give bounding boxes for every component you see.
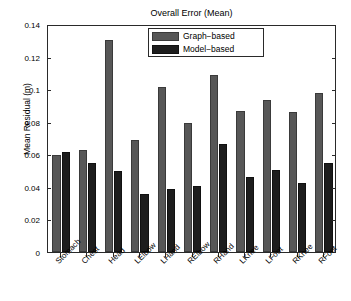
- legend-item-graph-based[interactable]: Graph−based: [152, 31, 235, 42]
- bar-chest-model-based[interactable]: [88, 163, 96, 252]
- bar-head-model-based[interactable]: [114, 171, 122, 252]
- legend-swatch-model-based-icon: [152, 45, 179, 54]
- y-tick-label: 0.06: [24, 151, 40, 160]
- y-tick-label: 0.08: [24, 118, 40, 127]
- bar-lknee-graph-based[interactable]: [236, 111, 244, 252]
- bar-rhand-model-based[interactable]: [219, 144, 227, 252]
- bar-stomach-graph-based[interactable]: [52, 155, 60, 252]
- bar-relbow-graph-based[interactable]: [184, 123, 192, 252]
- y-axis-tick-labels: 00.020.040.060.080.10.120.14: [0, 25, 44, 253]
- legend-label-model-based: Model−based: [183, 45, 234, 54]
- bars-container: [48, 26, 335, 252]
- legend-item-model-based[interactable]: Model−based: [152, 44, 234, 55]
- y-tick-label: 0.02: [24, 216, 40, 225]
- x-axis-tick-labels: StomachChestHeadLElbowLHandRElbowRHandLK…: [0, 253, 351, 301]
- bar-rfoot-model-based[interactable]: [324, 163, 332, 252]
- bar-lfoot-model-based[interactable]: [272, 170, 280, 252]
- bar-lhand-graph-based[interactable]: [158, 87, 166, 252]
- bar-rknee-graph-based[interactable]: [289, 112, 297, 252]
- y-tick-label: 0.14: [24, 21, 40, 30]
- bar-head-graph-based[interactable]: [105, 40, 113, 252]
- bar-lknee-model-based[interactable]: [246, 177, 254, 252]
- bar-stomach-model-based[interactable]: [62, 152, 70, 252]
- y-tick-label: 0.12: [24, 53, 40, 62]
- bar-chest-graph-based[interactable]: [79, 150, 87, 252]
- y-tick-label: 0.1: [29, 86, 40, 95]
- bar-relbow-model-based[interactable]: [193, 186, 201, 252]
- legend: Graph−based Model−based: [148, 28, 264, 57]
- bar-rknee-model-based[interactable]: [298, 183, 306, 252]
- bar-rhand-graph-based[interactable]: [210, 75, 218, 252]
- plot-area: [47, 25, 336, 253]
- figure-canvas: Overall Error (Mean) Mean Residual (m) 0…: [0, 0, 351, 301]
- chart-title: Overall Error (Mean): [47, 8, 336, 18]
- bar-lfoot-graph-based[interactable]: [263, 100, 271, 252]
- y-tick-label: 0.04: [24, 183, 40, 192]
- bar-lelbow-graph-based[interactable]: [131, 140, 139, 252]
- legend-swatch-graph-based-icon: [152, 32, 179, 41]
- legend-label-graph-based: Graph−based: [183, 32, 235, 41]
- bar-rfoot-graph-based[interactable]: [315, 93, 323, 252]
